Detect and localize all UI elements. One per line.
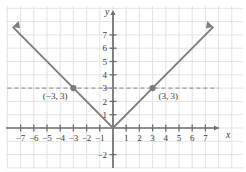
y-tick-label: 6 xyxy=(103,43,108,53)
x-tick-label: −2 xyxy=(82,133,92,143)
data-point-dot xyxy=(70,85,76,91)
x-tick-label: 3 xyxy=(150,133,155,143)
y-tick-label: 3 xyxy=(103,83,108,93)
x-tick-label: 1 xyxy=(124,133,129,143)
data-point-dot xyxy=(150,85,156,91)
x-tick-label: 7 xyxy=(203,133,208,143)
x-tick-label: −7 xyxy=(16,133,26,143)
y-tick-label: 7 xyxy=(103,30,108,40)
x-tick-label: −6 xyxy=(29,133,39,143)
x-tick-label: 4 xyxy=(164,133,169,143)
x-tick-label: −3 xyxy=(69,133,79,143)
x-axis-label: x xyxy=(225,130,231,140)
y-axis-label: y xyxy=(104,7,110,17)
x-tick-label: 5 xyxy=(177,133,182,143)
x-tick-label: 2 xyxy=(137,133,142,143)
y-tick-label: 2 xyxy=(103,97,108,107)
x-tick-label: −5 xyxy=(42,133,52,143)
x-tick-label: 6 xyxy=(190,133,195,143)
y-tick-label: 4 xyxy=(103,70,108,80)
y-tick-label: 1 xyxy=(103,110,108,120)
coordinate-graph: −7−6−5−4−3−2−11234567−21234567 xy (−3, 3… xyxy=(0,0,246,172)
y-tick-label: −2 xyxy=(97,150,107,160)
y-tick-label: 5 xyxy=(103,57,108,67)
x-tick-label: −4 xyxy=(55,133,65,143)
plot-canvas: −7−6−5−4−3−2−11234567−21234567 xy (−3, 3… xyxy=(0,0,246,172)
point-label: (−3, 3) xyxy=(43,91,68,101)
x-tick-label: −1 xyxy=(95,133,105,143)
point-label: (3, 3) xyxy=(159,91,179,101)
